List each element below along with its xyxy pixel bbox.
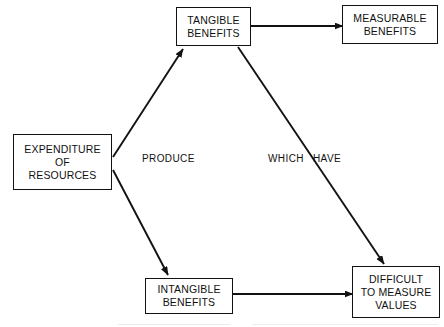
edge-expenditure-to-intangible: [113, 170, 168, 275]
edge-label-have: HAVE: [313, 153, 341, 165]
edge-tangible-to-difficult: [238, 47, 384, 264]
node-expenditure-of-resources[interactable]: EXPENDITURE OF RESOURCES: [13, 134, 112, 190]
node-difficult-to-measure-values-line-1: DIFFICULT: [369, 273, 423, 286]
node-expenditure-of-resources-line-3: RESOURCES: [29, 169, 97, 182]
node-difficult-to-measure-values[interactable]: DIFFICULT TO MEASURE VALUES: [352, 266, 440, 318]
node-measurable-benefits-line-2: BENEFITS: [364, 25, 417, 38]
node-expenditure-of-resources-line-1: EXPENDITURE: [24, 143, 100, 156]
node-difficult-to-measure-values-line-2: TO MEASURE: [361, 286, 432, 299]
edge-label-produce: PRODUCE: [142, 153, 195, 165]
node-intangible-benefits-line-1: INTANGIBLE: [157, 283, 220, 296]
scan-artifact-left: [118, 324, 230, 325]
edge-label-which: WHICH: [268, 153, 304, 165]
diagram-canvas: TANGIBLE BENEFITS MEASURABLE BENEFITS EX…: [0, 0, 444, 327]
node-measurable-benefits[interactable]: MEASURABLE BENEFITS: [342, 5, 438, 44]
node-difficult-to-measure-values-line-3: VALUES: [375, 299, 417, 312]
node-tangible-benefits-line-2: BENEFITS: [187, 27, 240, 40]
edge-expenditure-to-tangible: [113, 49, 183, 157]
node-measurable-benefits-line-1: MEASURABLE: [353, 12, 426, 25]
node-intangible-benefits[interactable]: INTANGIBLE BENEFITS: [145, 278, 233, 314]
scan-artifact-right: [252, 324, 438, 325]
node-expenditure-of-resources-line-2: OF: [55, 156, 70, 169]
node-intangible-benefits-line-2: BENEFITS: [163, 296, 216, 309]
node-tangible-benefits[interactable]: TANGIBLE BENEFITS: [176, 7, 251, 46]
node-tangible-benefits-line-1: TANGIBLE: [187, 14, 239, 27]
